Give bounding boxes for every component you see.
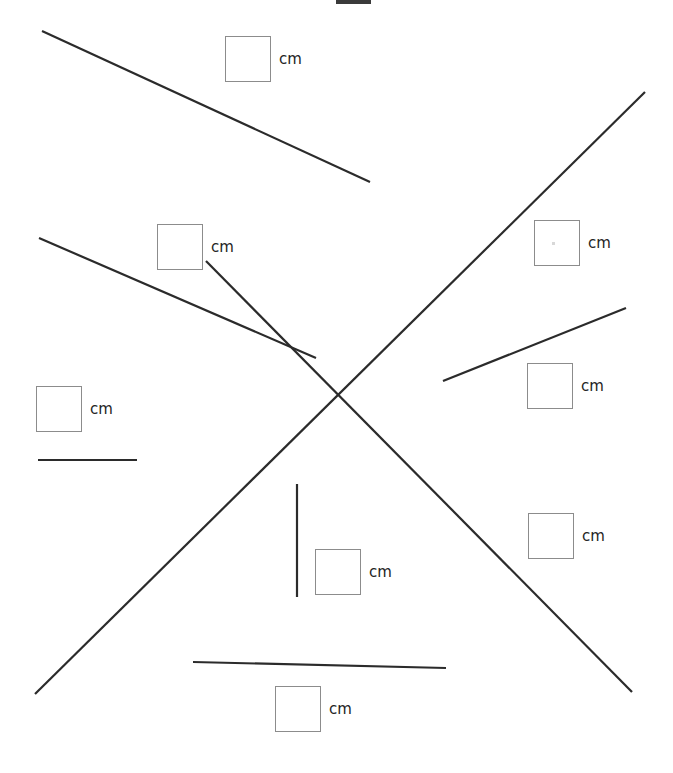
answer-5-group: cm xyxy=(527,363,604,409)
answer-8-unit-label: cm xyxy=(329,702,352,717)
answer-4-unit-label: cm xyxy=(90,402,113,417)
answer-2-unit-label: cm xyxy=(211,240,234,255)
answer-3-unit-label: cm xyxy=(588,236,611,251)
answer-5-input[interactable] xyxy=(527,363,573,409)
worksheet-page: cmcmcmcmcmcmcmcm xyxy=(0,0,673,773)
answer-1-group: cm xyxy=(225,36,302,82)
answer-4-input[interactable] xyxy=(36,386,82,432)
answer-6-group: cm xyxy=(528,513,605,559)
answer-1-input[interactable] xyxy=(225,36,271,82)
answer-3-group: cm xyxy=(534,220,611,266)
answer-6-unit-label: cm xyxy=(582,529,605,544)
clipped-bar-top xyxy=(336,0,371,4)
answer-1-unit-label: cm xyxy=(279,52,302,67)
answer-7-group: cm xyxy=(315,549,392,595)
stray-dot-in-answer-3 xyxy=(552,242,555,245)
answer-7-unit-label: cm xyxy=(369,565,392,580)
answer-4-group: cm xyxy=(36,386,113,432)
answer-6-input[interactable] xyxy=(528,513,574,559)
answer-7-input[interactable] xyxy=(315,549,361,595)
answer-2-input[interactable] xyxy=(157,224,203,270)
line-bottom-horizontal xyxy=(193,662,446,668)
answer-3-input[interactable] xyxy=(534,220,580,266)
line-long-diagonal-descending xyxy=(206,261,632,692)
answer-2-group: cm xyxy=(157,224,234,270)
answer-5-unit-label: cm xyxy=(581,379,604,394)
answer-8-group: cm xyxy=(275,686,352,732)
answer-8-input[interactable] xyxy=(275,686,321,732)
line-top-left-descending xyxy=(42,31,370,182)
